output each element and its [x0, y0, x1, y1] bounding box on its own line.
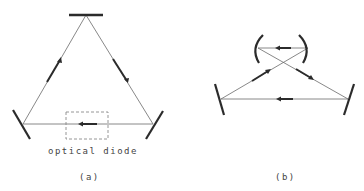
left-mirror: [13, 110, 30, 139]
optical-diode-box: [66, 112, 108, 139]
arrow-right-leg: [113, 59, 127, 81]
flat-mirror-right: [344, 84, 354, 115]
flat-mirror-left: [215, 84, 224, 115]
caption-a: (a): [79, 172, 100, 182]
panel-a: [13, 15, 163, 139]
arrow-cross-1: [296, 69, 311, 78]
diagram-canvas: [0, 0, 364, 191]
arrowhead-bottom-leg: [78, 122, 83, 127]
curved-mirror-right: [299, 35, 307, 63]
caption-b: (b): [275, 172, 296, 182]
arrow-cross-2: [252, 71, 268, 81]
right-mirror: [146, 111, 163, 139]
optical-diode-label: optical diode: [48, 146, 138, 156]
panel-b: [215, 35, 354, 115]
arrow-left-leg: [47, 60, 60, 82]
arrowhead-top: [275, 46, 280, 51]
arrowhead-bottom: [276, 97, 281, 102]
